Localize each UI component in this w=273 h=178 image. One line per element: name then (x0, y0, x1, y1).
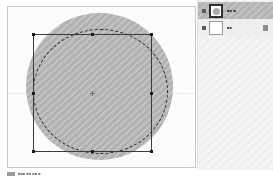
layer-thumbnail[interactable] (209, 4, 223, 18)
resize-handle-top-center[interactable] (91, 33, 94, 36)
layer-name-label: ■■ (227, 25, 263, 31)
resize-handle-bottom-right[interactable] (150, 150, 153, 153)
resize-handle-bottom-center[interactable] (91, 150, 94, 153)
resize-handle-middle-left[interactable] (32, 92, 35, 95)
resize-handle-middle-right[interactable] (150, 92, 153, 95)
document-canvas[interactable] (7, 6, 196, 168)
resize-handle-top-left[interactable] (32, 33, 35, 36)
layer-visibility-icon[interactable] (200, 23, 207, 33)
layers-list: ■■ ■ ■■ (198, 2, 273, 36)
circle-thumbnail (213, 8, 220, 15)
layer-row[interactable]: ■■ (198, 19, 273, 36)
eye-dot (202, 9, 206, 13)
resize-handle-top-right[interactable] (150, 33, 153, 36)
status-text: ■■■ ■■ ■■ ■ (18, 171, 41, 176)
lock-icon[interactable] (263, 25, 268, 31)
editor-window: ■■ ■ ■■ ■■■ ■■ ■■ ■ (0, 0, 273, 178)
layer-row[interactable]: ■■ ■ (198, 2, 273, 19)
transform-center-crosshair-icon[interactable] (90, 91, 95, 96)
resize-handle-bottom-left[interactable] (32, 150, 35, 153)
transform-bounding-box[interactable] (33, 34, 152, 152)
layer-name-label: ■■ ■ (227, 8, 273, 14)
blank-thumbnail (210, 22, 222, 34)
status-chip-icon (7, 172, 15, 176)
eye-dot (202, 26, 206, 30)
layer-thumbnail[interactable] (209, 21, 223, 35)
layer-visibility-icon[interactable] (200, 6, 207, 16)
status-bar: ■■■ ■■ ■■ ■ (7, 170, 87, 177)
layers-panel: ■■ ■ ■■ (197, 0, 273, 170)
